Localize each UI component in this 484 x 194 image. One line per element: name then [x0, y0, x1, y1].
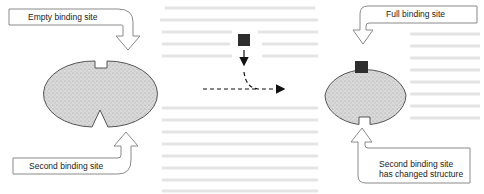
right-protein — [325, 61, 406, 125]
full-binding-site-label: Full binding site — [386, 9, 445, 19]
bound-ligand-square — [355, 61, 368, 73]
ligand-square — [238, 34, 250, 46]
second-binding-site-left-label: Second binding site — [29, 161, 103, 171]
ligand-binding-arrow-group — [203, 34, 283, 89]
second-binding-site-right-label-line1: Second binding site — [379, 159, 453, 169]
second-binding-site-right-label-line2: has changed structure — [379, 169, 463, 179]
empty-binding-site-label: Empty binding site — [28, 12, 97, 22]
left-protein — [43, 61, 157, 127]
